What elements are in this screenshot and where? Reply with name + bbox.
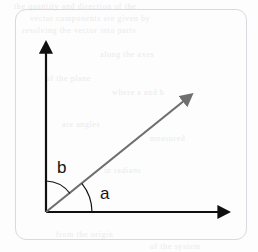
angle-arc-b <box>46 181 70 194</box>
figure-page: the quantity and direction of the vector… <box>0 0 258 252</box>
angle-arc-a <box>82 183 92 212</box>
angle-label-a: a <box>100 185 109 202</box>
vector-ray <box>46 100 185 212</box>
angle-label-b: b <box>57 159 66 176</box>
angle-diagram <box>0 0 258 252</box>
